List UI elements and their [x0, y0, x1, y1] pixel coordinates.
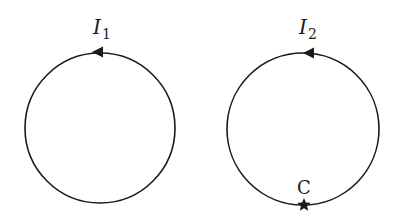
two-current-loops-diagram: I1 I2 C — [0, 0, 393, 223]
loop-2-current-label: I2 — [298, 15, 317, 42]
loop-1-current-subscript: 1 — [102, 26, 111, 42]
loop-1: I1 — [25, 15, 175, 203]
point-c-star-icon — [297, 198, 310, 211]
loop-2-current-arrow-icon — [303, 48, 314, 59]
loop-2: I2 C — [227, 15, 379, 211]
point-c-label: C — [297, 177, 311, 198]
loop-1-circle — [25, 53, 175, 203]
loop-1-current-label: I1 — [92, 15, 111, 42]
loop-2-current-subscript: 2 — [308, 26, 317, 42]
loop-1-current-arrow-icon — [92, 47, 103, 58]
